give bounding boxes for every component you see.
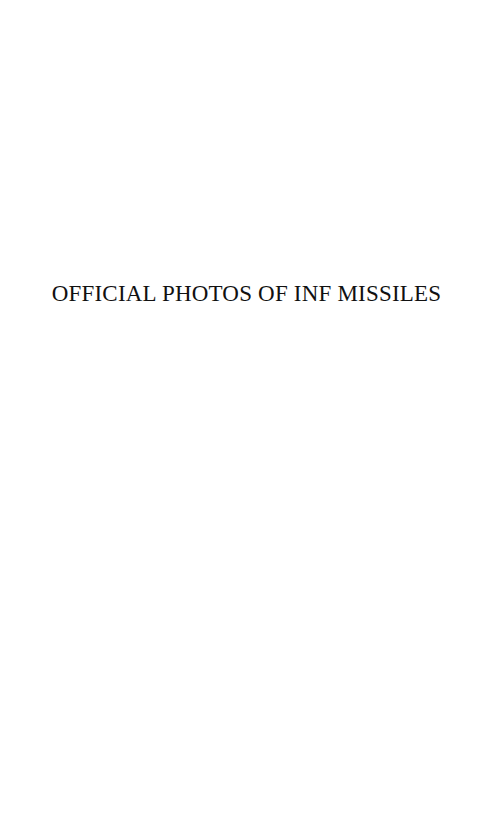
page-title: OFFICIAL PHOTOS OF INF MISSILES	[0, 280, 493, 308]
document-page: OFFICIAL PHOTOS OF INF MISSILES	[0, 0, 493, 831]
